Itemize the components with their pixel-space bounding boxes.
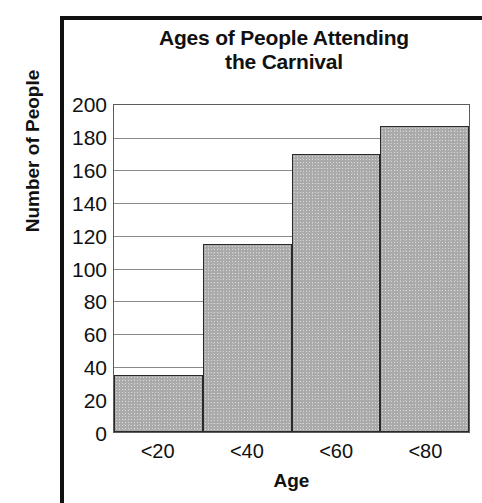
y-axis-tick-labels: 200180160140120100806040200 bbox=[41, 104, 107, 433]
y-tick-label-120: 120 bbox=[72, 225, 107, 246]
plot-area bbox=[113, 104, 470, 433]
y-tick-label-140: 140 bbox=[72, 192, 107, 213]
x-axis-label: Age bbox=[113, 470, 470, 492]
y-tick-label-60: 60 bbox=[84, 324, 107, 345]
x-tick-label-<80: <80 bbox=[381, 440, 470, 466]
x-tick-label-<60: <60 bbox=[292, 440, 381, 466]
y-tick-label-0: 0 bbox=[95, 423, 107, 444]
chart-title-line-2: the Carnival bbox=[96, 50, 472, 74]
x-tick-label-<20: <20 bbox=[113, 440, 202, 466]
x-tick-label-<40: <40 bbox=[202, 440, 291, 466]
y-tick-label-80: 80 bbox=[84, 291, 107, 312]
x-axis-tick-labels: <20<40<60<80 bbox=[113, 440, 470, 466]
bar-series bbox=[114, 105, 469, 432]
y-tick-label-100: 100 bbox=[72, 258, 107, 279]
bar-<80 bbox=[380, 126, 469, 432]
chart-title-line-1: Ages of People Attending bbox=[96, 26, 472, 50]
bar-<40 bbox=[203, 244, 292, 432]
y-tick-label-40: 40 bbox=[84, 357, 107, 378]
bar-<20 bbox=[114, 375, 203, 432]
y-tick-label-20: 20 bbox=[84, 390, 107, 411]
y-tick-label-160: 160 bbox=[72, 159, 107, 180]
chart-title: Ages of People Attendingthe Carnival bbox=[96, 26, 472, 75]
y-tick-label-180: 180 bbox=[72, 126, 107, 147]
bar-chart: Ages of People Attendingthe Carnival Num… bbox=[0, 0, 482, 503]
y-tick-label-200: 200 bbox=[72, 94, 107, 115]
bar-<60 bbox=[292, 154, 381, 432]
